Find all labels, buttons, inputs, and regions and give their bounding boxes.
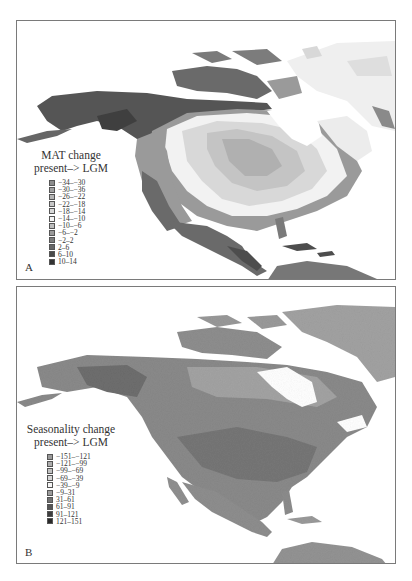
legend-label: 121–151: [56, 518, 82, 525]
mat-change-legend: MAT change present–> LGM −34–−30 −30–−36…: [27, 149, 115, 265]
legend-item: 10–14: [49, 258, 115, 265]
legend-swatch: [47, 454, 53, 460]
legend-items: −151–−121 −121–−99 −99–−69 −69–−39 −39–−…: [25, 453, 117, 525]
legend-swatch: [49, 230, 55, 236]
panel-letter-a: A: [25, 261, 33, 273]
legend-swatch: [47, 475, 53, 481]
legend-swatch: [49, 187, 55, 193]
legend-swatch: [49, 237, 55, 243]
legend-swatch: [49, 259, 55, 265]
legend-swatch: [47, 482, 53, 488]
legend-label: 10–14: [58, 258, 77, 265]
legend-swatch: [49, 251, 55, 257]
legend-swatch: [49, 244, 55, 250]
legend-title-line1: MAT change: [27, 149, 115, 162]
legend-swatch: [47, 518, 53, 524]
legend-item: 121–151: [47, 518, 117, 525]
legend-swatch: [47, 490, 53, 496]
legend-swatch: [49, 180, 55, 186]
legend-swatch: [49, 201, 55, 207]
legend-swatch: [49, 216, 55, 222]
panel-b-seasonality-change-map: Seasonality change present–> LGM −151–−1…: [16, 286, 396, 564]
legend-title-line2: present–> LGM: [27, 162, 115, 175]
panel-a-mat-change-map: MAT change present–> LGM −34–−30 −30–−36…: [16, 20, 396, 280]
legend-swatch: [49, 223, 55, 229]
legend-title-line2: present–> LGM: [25, 436, 117, 449]
legend-title-line1: Seasonality change: [25, 423, 117, 436]
panel-letter-b: B: [25, 546, 32, 558]
legend-swatch: [47, 511, 53, 517]
legend-swatch: [47, 461, 53, 467]
legend-swatch: [47, 497, 53, 503]
legend-items: −34–−30 −30–−36 −26–−22 −22–−18 −18–−14 …: [27, 179, 115, 265]
seasonality-change-legend: Seasonality change present–> LGM −151–−1…: [25, 423, 117, 525]
legend-swatch: [47, 504, 53, 510]
legend-swatch: [49, 194, 55, 200]
legend-swatch: [49, 208, 55, 214]
legend-swatch: [47, 468, 53, 474]
